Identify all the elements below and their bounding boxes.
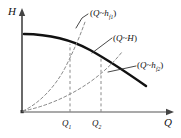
curve-label-hf1-close: ) xyxy=(113,8,116,18)
y-axis-arrowhead xyxy=(19,8,25,16)
pump-curve-figure: H Q Q1 Q2 (Q~hf1) (Q~H) (Q~hf2) xyxy=(0,0,181,138)
curve-label-hf2-base: Q~h xyxy=(140,60,156,70)
x-tick-q1-subscript: 1 xyxy=(69,124,72,130)
x-axis-arrowhead xyxy=(166,109,174,115)
x-tick-label-q1: Q1 xyxy=(62,119,71,130)
x-tick-q2-subscript: 2 xyxy=(99,124,102,130)
x-tick-label-q2: Q2 xyxy=(92,119,101,130)
curve-label-qh-close: ) xyxy=(134,33,137,43)
curve-label-hf2-close: ) xyxy=(160,60,163,70)
leader-line-hf1 xyxy=(76,14,88,28)
y-axis-label: H xyxy=(8,6,16,17)
curve-label-hf1-base: Q~h xyxy=(93,8,109,18)
curve-label-qh: (Q~H) xyxy=(113,34,137,45)
curve-label-hf1: (Q~hf1) xyxy=(90,9,116,20)
curve-label-qh-base: Q~H xyxy=(116,33,134,43)
x-axis-label: Q xyxy=(164,117,172,128)
curve-label-hf2: (Q~hf2) xyxy=(137,61,163,72)
leader-line-qh xyxy=(92,38,112,53)
